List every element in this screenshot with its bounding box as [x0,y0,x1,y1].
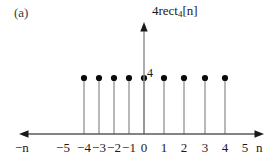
x-axis-left-label: −n [15,140,29,156]
amplitude-label: 4 [147,66,153,81]
stem-dot [96,75,102,81]
stem-dot [111,75,117,81]
stem-dot [126,75,132,81]
x-axis-left-arrowhead [19,130,29,137]
y-axis-arrowhead [140,22,147,32]
x-tick-label: 1 [154,140,174,156]
x-axis-right-label: n [256,140,263,156]
stem-dot [161,75,167,81]
stem-dot [222,75,228,81]
x-tick-label: 3 [195,140,215,156]
x-tick-label: 0 [134,140,154,156]
stem-group [81,75,228,134]
x-tick-label: 4 [215,140,235,156]
stem-dot [81,75,87,81]
figure-stem-plot: (a) 4rect4[n] 4 −n n −5−4−3−2−1012345 [0,0,277,165]
x-tick-label: 5 [235,140,255,156]
stem-dot [181,75,187,81]
x-tick-label: −5 [53,140,73,156]
x-axis-right-arrowhead [255,130,265,137]
stem-dot [202,75,208,81]
x-tick-label: 2 [174,140,194,156]
